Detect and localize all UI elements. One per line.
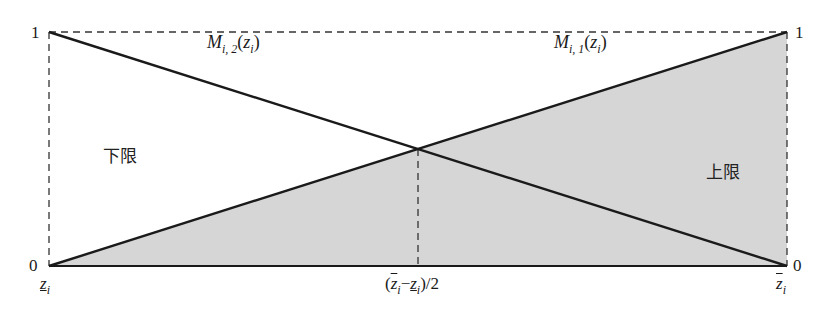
arg-sub: i [597,42,600,56]
mid-b: z [410,274,417,293]
curve-name: M [554,32,569,52]
x-right-label: zi [776,275,786,292]
right-y-top-label: 1 [795,24,804,41]
x-left-sub: i [47,283,50,297]
curve-name: M [207,32,222,52]
arg-close: ) [254,32,260,52]
mid-close: )/2 [420,274,439,293]
x-right-sub: i [783,283,786,297]
upper-limit-label: 上限 [706,164,740,181]
membership-function-diagram: 1 0 1 0 Mi, 2(zi) Mi, 1(zi) 下限 上限 zi (zi… [0,0,833,321]
right-y-bottom-label: 0 [793,257,802,274]
mid-minus: − [401,274,411,293]
x-left-symbol: z [40,274,47,293]
lower-limit-label: 下限 [103,148,137,165]
left-y-bottom-label: 0 [29,257,38,274]
left-y-top-label: 1 [31,24,40,41]
arg-sub: i [250,42,253,56]
x-right-symbol: z [776,274,783,293]
decreasing-curve-label: Mi, 2(zi) [207,33,260,51]
mid-a-sub: i [397,283,400,297]
arg-close: ) [601,32,607,52]
increasing-curve-label: Mi, 1(zi) [554,33,607,51]
curve-sub: i, 1 [569,42,584,56]
mid-b-sub: i [417,283,420,297]
curve-sub: i, 2 [222,42,237,56]
x-mid-label: (zi−zi)/2 [385,275,439,292]
x-left-label: zi [40,275,50,292]
